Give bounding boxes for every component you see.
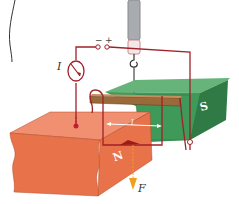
conductor-rod <box>90 94 182 106</box>
length-label: l <box>131 118 134 127</box>
ammeter-icon <box>68 61 84 81</box>
margin-curve <box>9 0 15 62</box>
minus-terminal <box>96 45 100 49</box>
current-label: I <box>57 60 61 73</box>
plus-sign: + <box>105 35 113 45</box>
magnetic-force-diagram: I − + F l N S <box>0 0 239 204</box>
plus-terminal <box>105 45 109 49</box>
minus-sign: − <box>95 35 103 45</box>
terminal <box>188 140 193 145</box>
force-label: F <box>138 182 146 195</box>
